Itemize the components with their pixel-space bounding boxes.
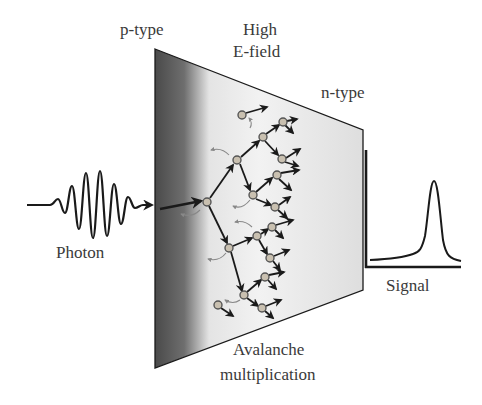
high-field-label-line2: E-field: [233, 42, 280, 62]
photon-label: Photon: [56, 243, 104, 263]
p-type-label: p-type: [120, 20, 163, 40]
avalanche-label-line1: Avalanche: [233, 340, 304, 360]
avalanche-label-line2: multiplication: [220, 365, 315, 385]
n-type-label: n-type: [321, 83, 364, 103]
signal-label: Signal: [386, 276, 429, 296]
high-field-label-line1: High: [243, 20, 277, 40]
photon-wave-icon: [27, 171, 152, 238]
signal-plot: [365, 150, 461, 268]
